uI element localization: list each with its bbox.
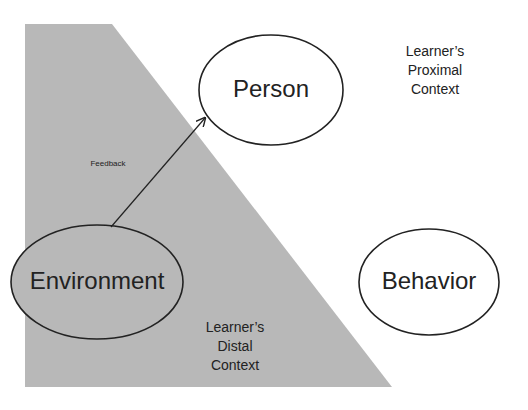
person-node-label: Person <box>199 74 343 104</box>
distal-context-line-1: Learner’s <box>200 318 270 337</box>
proximal-context-label: Learner’s Proximal Context <box>400 42 470 99</box>
feedback-edge-label: Feedback <box>83 159 133 169</box>
distal-context-label: Learner’s Distal Context <box>200 318 270 375</box>
behavior-node-label: Behavior <box>359 266 499 296</box>
proximal-context-line-1: Learner’s <box>400 42 470 61</box>
environment-node-label: Environment <box>11 266 183 296</box>
proximal-context-line-3: Context <box>400 80 470 99</box>
distal-context-line-3: Context <box>200 356 270 375</box>
distal-context-line-2: Distal <box>200 337 270 356</box>
proximal-context-line-2: Proximal <box>400 61 470 80</box>
